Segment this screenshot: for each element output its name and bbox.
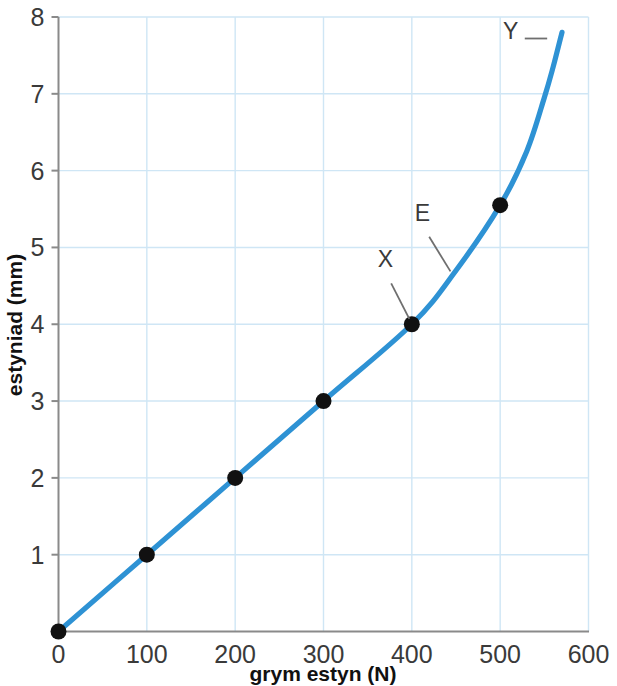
- y-axis-tick-labels: 12345678: [31, 3, 45, 569]
- y-tick-label: 7: [31, 80, 45, 108]
- data-point-marker: [404, 316, 420, 332]
- y-axis-ticks: [52, 17, 59, 555]
- data-point-marker: [51, 624, 67, 640]
- annotation-labels: XEY: [378, 18, 519, 272]
- y-axis-title: estyniad (mm): [3, 254, 26, 396]
- annotation-label-e: E: [415, 200, 430, 226]
- data-point-markers: [51, 197, 509, 639]
- y-tick-label: 8: [31, 3, 45, 31]
- y-tick-label: 2: [31, 464, 45, 492]
- y-tick-label: 5: [31, 233, 45, 261]
- x-tick-label: 500: [479, 640, 521, 668]
- x-tick-label: 400: [391, 640, 433, 668]
- y-tick-label: 1: [31, 541, 45, 569]
- data-point-marker: [316, 393, 332, 409]
- data-point-marker: [227, 470, 243, 486]
- grid-lines: [59, 17, 589, 632]
- annotation-label-y: Y: [503, 18, 518, 44]
- data-point-marker: [492, 197, 508, 213]
- data-curve: [59, 32, 563, 631]
- y-tick-label: 4: [31, 310, 45, 338]
- chart-svg: 12345678 0100200300400500600 XEY grym es…: [0, 0, 617, 686]
- leader-line-x: [391, 283, 409, 318]
- data-point-marker: [139, 547, 155, 563]
- annotation-leader-lines: [391, 39, 547, 319]
- x-axis-title: grym estyn (N): [249, 662, 396, 685]
- x-tick-label: 100: [126, 640, 168, 668]
- x-tick-label: 600: [568, 640, 610, 668]
- force-extension-chart: 12345678 0100200300400500600 XEY grym es…: [0, 0, 617, 686]
- annotation-label-x: X: [378, 246, 393, 272]
- y-tick-label: 3: [31, 387, 45, 415]
- y-tick-label: 6: [31, 157, 45, 185]
- leader-line-e: [429, 237, 450, 272]
- x-tick-label: 0: [52, 640, 66, 668]
